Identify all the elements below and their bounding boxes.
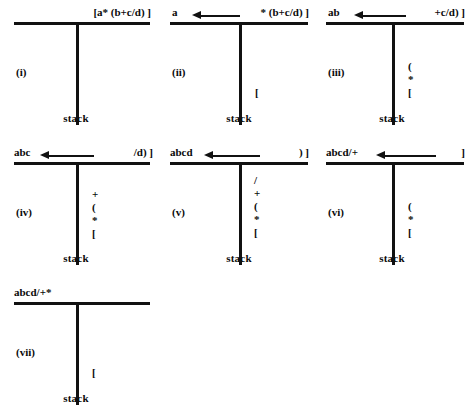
panel-step-label: (vi) (328, 206, 344, 218)
stack-item: ( (254, 200, 258, 213)
stack-panel: stack(i)[a* (b+c/d) ] (6, 0, 161, 140)
stack-item: ( (408, 200, 412, 213)
stack-caption: stack (63, 252, 88, 264)
stack-contents: +(*[ (92, 188, 98, 240)
stack-top-rail (326, 162, 464, 165)
leftward-arrow-icon (354, 11, 406, 20)
stack-top-rail (14, 302, 150, 305)
stack-item: [ (408, 86, 412, 99)
stack-panel: stack(vi)abcd/+](*[ (318, 140, 469, 280)
stack-contents: /+(*[ (254, 174, 260, 239)
leftward-arrow-icon (40, 151, 94, 160)
arrow-head (204, 151, 213, 159)
output-expression: abc (14, 146, 31, 158)
stack-item: * (92, 214, 98, 227)
stack-panel: stack(iii)ab+c/d) ](*[ (318, 0, 469, 140)
stack-stem (239, 162, 242, 265)
panel-step-label: (iii) (328, 66, 345, 78)
input-expression: /d) ] (134, 146, 153, 158)
stack-contents: [ (255, 86, 259, 99)
arrow-shaft (360, 15, 406, 17)
input-expression: * (b+c/d) ] (261, 6, 309, 18)
stack-panel: stack(v)abcd) ]/+(*[ (162, 140, 317, 280)
stack-item: [ (92, 227, 96, 240)
output-expression: ab (328, 6, 340, 18)
stack-item: / (254, 174, 257, 187)
stack-stem (392, 162, 395, 265)
stack-stem (76, 302, 79, 405)
stack-top-rail (326, 22, 464, 25)
stack-stem (239, 22, 242, 125)
input-expression: +c/d) ] (435, 6, 465, 18)
stack-caption: stack (226, 252, 251, 264)
output-expression: abcd (170, 146, 193, 158)
arrow-shaft (46, 155, 94, 157)
stack-top-rail (14, 162, 150, 165)
stack-item: [ (92, 366, 96, 379)
input-expression: ) ] (299, 146, 309, 158)
arrow-shaft (210, 155, 260, 157)
leftward-arrow-icon (204, 151, 260, 160)
stack-conversion-figure: stack(i)[a* (b+c/d) ]stack(ii)a* (b+c/d)… (0, 0, 469, 419)
arrow-head (40, 151, 49, 159)
leftward-arrow-icon (376, 151, 436, 160)
output-expression: abcd/+ (326, 146, 358, 158)
panel-step-label: (v) (172, 206, 185, 218)
arrow-head (376, 151, 385, 159)
arrow-shaft (382, 155, 436, 157)
input-expression: [a* (b+c/d) ] (93, 6, 151, 18)
stack-item: [ (408, 226, 412, 239)
stack-caption: stack (226, 112, 251, 124)
stack-item: ( (408, 60, 412, 73)
output-expression: a (172, 6, 178, 18)
panel-step-label: (i) (16, 66, 26, 78)
output-expression: abcd/+* (14, 286, 51, 298)
stack-panel: stack(iv)abc/d) ]+(*[ (6, 140, 161, 280)
arrow-head (192, 11, 201, 19)
stack-panel: stack(vii)abcd/+*[ (6, 280, 161, 419)
stack-item: + (254, 187, 260, 200)
stack-caption: stack (63, 112, 88, 124)
stack-item: [ (255, 86, 259, 99)
stack-contents: (*[ (408, 200, 414, 239)
arrow-head (354, 11, 363, 19)
stack-stem (392, 22, 395, 125)
stack-item: * (408, 213, 414, 226)
stack-item: [ (254, 226, 258, 239)
panel-step-label: (vii) (16, 346, 35, 358)
stack-caption: stack (379, 252, 404, 264)
stack-item: * (408, 73, 414, 86)
stack-item: * (254, 213, 260, 226)
stack-contents: (*[ (408, 60, 414, 99)
stack-caption: stack (63, 392, 88, 404)
stack-stem (76, 22, 79, 125)
panel-step-label: (ii) (172, 66, 185, 78)
stack-item: ( (92, 201, 96, 214)
leftward-arrow-icon (192, 11, 240, 20)
stack-contents: [ (92, 366, 96, 379)
panel-step-label: (iv) (16, 206, 32, 218)
stack-panel: stack(ii)a* (b+c/d) ][ (162, 0, 317, 140)
stack-stem (76, 162, 79, 265)
arrow-shaft (198, 15, 240, 17)
input-expression: ] (461, 146, 465, 158)
stack-caption: stack (379, 112, 404, 124)
stack-item: + (92, 188, 98, 201)
stack-top-rail (14, 22, 150, 25)
